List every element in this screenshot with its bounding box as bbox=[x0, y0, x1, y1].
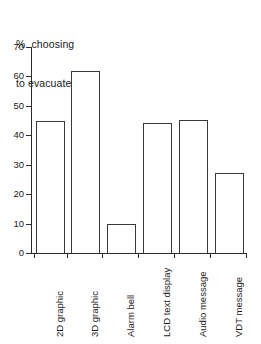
y-axis-tick bbox=[26, 76, 31, 77]
y-axis-tick-label: 60 bbox=[0, 71, 24, 81]
x-axis-tick bbox=[210, 253, 211, 258]
y-axis-tick bbox=[26, 253, 31, 254]
y-axis-tick-label: 70 bbox=[0, 42, 24, 52]
y-axis-tick-label-text: 0 bbox=[0, 248, 24, 258]
x-axis-tick bbox=[174, 253, 175, 258]
y-axis-tick-label-text: 50 bbox=[0, 101, 24, 111]
y-axis-tick-label: 0 bbox=[0, 248, 24, 258]
x-axis-category-label: 3D graphic bbox=[90, 291, 100, 337]
bar bbox=[36, 121, 65, 253]
y-axis-tick-label-text: 70 bbox=[0, 42, 24, 52]
y-axis-tick bbox=[26, 135, 31, 136]
plot-area: 010203040506070 2D graphic3D graphicAlar… bbox=[0, 0, 261, 344]
y-axis-tick-label: 50 bbox=[0, 101, 24, 111]
x-axis-tick bbox=[246, 253, 247, 258]
x-axis-category-label: VDT message bbox=[234, 277, 244, 337]
y-axis-tick bbox=[26, 224, 31, 225]
x-axis-tick bbox=[67, 253, 68, 258]
y-axis-tick-label-text: 40 bbox=[0, 130, 24, 140]
x-axis-line bbox=[31, 253, 247, 254]
bar bbox=[107, 224, 136, 253]
y-axis-tick bbox=[26, 106, 31, 107]
y-axis-tick-label: 10 bbox=[0, 219, 24, 229]
bar bbox=[215, 173, 244, 253]
bar-chart: % choosing to evacuate 010203040506070 2… bbox=[0, 0, 261, 344]
bar bbox=[71, 71, 100, 253]
x-axis-tick bbox=[34, 253, 35, 258]
y-axis-tick bbox=[26, 165, 31, 166]
y-axis-tick-label: 30 bbox=[0, 160, 24, 170]
y-axis-tick bbox=[26, 194, 31, 195]
y-axis-tick-label-text: 10 bbox=[0, 219, 24, 229]
x-axis-category-label: Audio message bbox=[198, 272, 208, 337]
x-axis-tick bbox=[138, 253, 139, 258]
x-axis-category-label: 2D graphic bbox=[55, 291, 65, 337]
y-axis-tick-label-text: 60 bbox=[0, 71, 24, 81]
y-axis-tick-label-text: 30 bbox=[0, 160, 24, 170]
x-axis-tick bbox=[102, 253, 103, 258]
bar bbox=[179, 120, 208, 253]
y-axis-tick-label: 40 bbox=[0, 130, 24, 140]
y-axis-tick-label-text: 20 bbox=[0, 189, 24, 199]
x-axis-category-label: LCD text display bbox=[162, 268, 172, 337]
x-axis-category-label: Alarm bell bbox=[126, 295, 136, 337]
bar bbox=[143, 123, 172, 253]
y-axis-tick-label: 20 bbox=[0, 189, 24, 199]
y-axis-line bbox=[31, 47, 32, 254]
y-axis-tick bbox=[26, 47, 31, 48]
